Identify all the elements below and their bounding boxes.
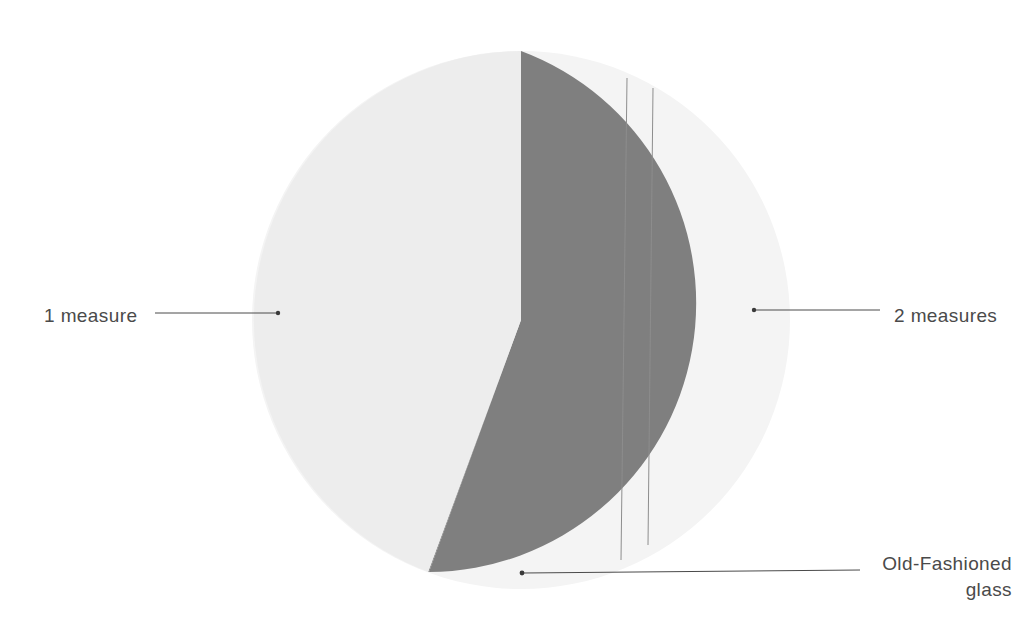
pie-label-old-fashioned-glass-line2: glass xyxy=(966,579,1012,600)
pie-label-2-measures: 2 measures xyxy=(894,303,997,329)
pie-label-1-measure: 1 measure xyxy=(44,303,137,329)
pie-label-old-fashioned-glass: Old-Fashioned glass xyxy=(778,551,1012,602)
pie-label-old-fashioned-glass-line1: Old-Fashioned xyxy=(882,553,1012,574)
leader-dot-1-measure xyxy=(276,311,280,315)
leader-dot-2-measures xyxy=(752,308,756,312)
leader-dot-old-fashioned-glass xyxy=(520,571,525,576)
pie-chart-svg xyxy=(0,0,1030,640)
pie-chart-canvas: 1 measure 2 measures Old-Fashioned glass xyxy=(0,0,1030,640)
